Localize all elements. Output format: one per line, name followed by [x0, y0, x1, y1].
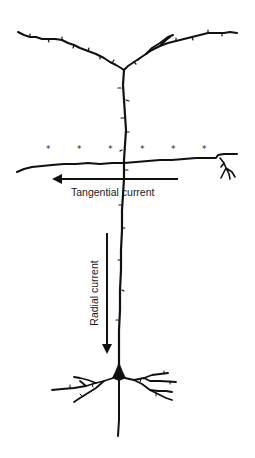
apical-tuft-left-branch — [18, 32, 124, 70]
apical-tuft-right-sub-branch — [146, 35, 173, 54]
radial-current-annotation: Radial current — [88, 233, 107, 352]
marker-asterisk: * — [202, 144, 207, 154]
marker-asterisk: * — [77, 144, 82, 154]
radial-current-label: Radial current — [88, 260, 100, 325]
tangential-current-annotation: Tangential current — [54, 179, 178, 198]
apical-tuft-right-branch — [124, 32, 237, 70]
basal-dendrite-left-lower — [74, 381, 104, 402]
soma — [112, 362, 126, 381]
marker-asterisk: * — [46, 144, 51, 154]
neuron-diagram: * * * * * * Tangential current Radial cu… — [0, 0, 255, 458]
marker-row: * * * * * * — [46, 144, 207, 154]
apical-trunk — [116, 70, 129, 365]
axon — [118, 381, 119, 436]
tangential-current-label: Tangential current — [71, 186, 155, 198]
horizontal-fiber — [17, 154, 237, 179]
apical-tuft — [18, 30, 237, 70]
marker-asterisk: * — [140, 144, 145, 154]
marker-asterisk: * — [108, 144, 113, 154]
fiber-terminal-branch — [220, 158, 235, 179]
marker-asterisk: * — [171, 144, 176, 154]
